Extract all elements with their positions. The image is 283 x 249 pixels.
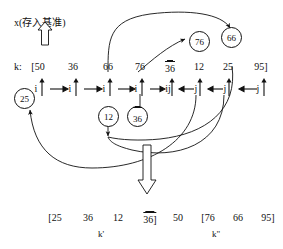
k-value-6: 25 [223, 61, 233, 72]
k-value-4-text: 36 [165, 61, 175, 74]
pointer-label-0: i [35, 83, 38, 94]
arc-to-25-bubble [30, 95, 196, 168]
pointer-label-4: ij [165, 83, 171, 94]
result-value-3-text: 36] [143, 212, 156, 225]
bubble-12: 12 [98, 106, 119, 127]
arc-lower-right [108, 95, 224, 153]
pointer-label-5: j [195, 83, 198, 94]
result-value-1: 36 [83, 212, 93, 223]
pointer-label-6: j [224, 83, 227, 94]
pointer-label-2: i [103, 83, 106, 94]
arc-inner-right [108, 66, 233, 140]
result-value-3: 36] [143, 212, 156, 225]
arc-76-to-bubble [138, 39, 185, 72]
result-value-0: [25 [48, 212, 61, 223]
result-sublabel-left: k' [98, 229, 104, 239]
pointer-label-7: j [257, 83, 260, 94]
result-sublabel-right: k" [212, 229, 220, 239]
k-value-7: 95] [254, 61, 267, 72]
result-value-6: 66 [233, 212, 243, 223]
k-row-label: k: [14, 61, 22, 72]
result-value-2: 12 [113, 212, 123, 223]
k-value-0: [50 [31, 61, 44, 72]
bubble-76: 76 [189, 31, 210, 52]
bubble-36: 36 [127, 106, 148, 127]
bubble-66: 66 [221, 27, 242, 48]
k-value-1: 36 [68, 61, 78, 72]
k-value-4: 36 [165, 61, 175, 74]
bubble-36-text: 36 [133, 107, 142, 130]
pointer-label-3: i [135, 83, 138, 94]
k-value-5: 12 [194, 61, 204, 72]
result-value-7: 95] [261, 212, 274, 223]
quicksort-partition-figure: x(存入基准) k: [50 36 66 76 36 12 25 95] [0, 0, 283, 249]
result-value-5: [76 [201, 212, 214, 223]
bubble-25: 25 [14, 88, 35, 109]
result-down-arrow-icon [138, 145, 156, 194]
k-value-3: 76 [135, 61, 145, 72]
pivot-note-label: x(存入基准) [14, 14, 66, 29]
k-value-2: 66 [103, 61, 113, 72]
result-value-4: 50 [173, 212, 183, 223]
pointer-label-1: i [69, 83, 72, 94]
